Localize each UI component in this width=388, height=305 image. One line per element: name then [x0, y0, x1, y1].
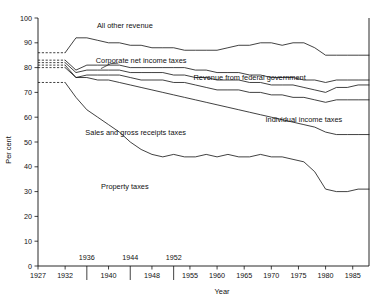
series-annotation-5: Property taxes: [101, 182, 149, 191]
x-tick-label: 1975: [290, 271, 306, 280]
series-annotations: All other revenueCorporate net income ta…: [85, 21, 342, 191]
y-tick-label: 100: [20, 14, 32, 23]
series-annotation-4: Sales and gross receipts taxes: [85, 128, 186, 137]
y-tick-label: 90: [24, 38, 32, 47]
y-tick-label: 0: [28, 262, 32, 271]
x-tick-label: 1985: [345, 271, 361, 280]
plot-frame: [38, 18, 369, 266]
series-line-5: [65, 82, 369, 191]
y-tick-label: 30: [24, 187, 32, 196]
y-tick-label: 80: [24, 63, 32, 72]
x-tick-label: 1952: [166, 253, 182, 262]
chart-container: Per cent Year 0102030405060708090100 192…: [0, 0, 388, 305]
series-annotation-3: Individual income taxes: [265, 115, 342, 124]
x-tick-label: 1927: [30, 271, 46, 280]
series-annotation-1: Corporate net income taxes: [96, 56, 187, 65]
y-tick-label: 20: [24, 212, 32, 221]
x-tick-label: 1948: [144, 271, 160, 280]
y-tick-label: 10: [24, 237, 32, 246]
y-axis-ticks: 0102030405060708090100: [20, 14, 38, 271]
x-tick-label: 1965: [236, 271, 252, 280]
series-annotation-0: All other revenue: [97, 21, 153, 30]
y-tick-label: 50: [24, 138, 32, 147]
x-tick-label: 1932: [57, 271, 73, 280]
x-axis-ticks: 1927193219361940194419481952195519601965…: [30, 253, 361, 280]
series-line-0: [65, 38, 369, 55]
y-axis-title-group: Per cent: [4, 136, 13, 164]
x-tick-label: 1960: [209, 271, 225, 280]
x-tick-label: 1940: [101, 271, 117, 280]
x-tick-label: 1955: [182, 271, 198, 280]
x-axis-title: Year: [215, 287, 230, 296]
x-tick-label: 1980: [318, 271, 334, 280]
x-tick-label: 1936: [79, 253, 95, 262]
y-tick-label: 40: [24, 162, 32, 171]
series-line-3: [65, 65, 369, 102]
x-tick-label: 1944: [122, 253, 138, 262]
y-axis-title: Per cent: [4, 136, 13, 164]
series-annotation-2: Revenue from federal government: [194, 73, 306, 82]
y-tick-label: 60: [24, 113, 32, 122]
revenue-composition-chart: Per cent Year 0102030405060708090100 192…: [0, 0, 388, 305]
y-tick-label: 70: [24, 88, 32, 97]
x-tick-label: 1970: [263, 271, 279, 280]
